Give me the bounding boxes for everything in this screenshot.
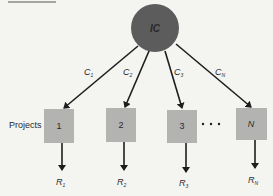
edge-cn-arrow (176, 44, 251, 107)
edge-c3-arrow (165, 51, 182, 108)
edge-c1-arrow (64, 46, 138, 108)
return-label-r2: R2 (117, 177, 127, 188)
return-labels: R1 R2 R3 RN (56, 175, 259, 189)
ellipsis-dots (202, 123, 220, 125)
project-box-n-label: N (248, 119, 255, 129)
edge-label-c2: C2 (123, 67, 133, 78)
source-node-label: IC (150, 23, 161, 34)
project-box-2: 2 (106, 108, 136, 142)
edge-label-c3: C3 (174, 67, 184, 78)
return-label-rn: RN (248, 175, 259, 186)
projects-row-label: Projects (9, 120, 42, 130)
return-arrows (62, 140, 255, 172)
edge-label-c1: C1 (84, 67, 94, 78)
project-box-1: 1 (44, 109, 74, 143)
source-node: IC (131, 4, 179, 52)
edge-label-cn: CN (215, 67, 226, 78)
project-box-3-label: 3 (179, 121, 184, 131)
return-label-r1: R1 (56, 177, 66, 188)
project-box-n: N (236, 108, 267, 140)
project-box-3: 3 (167, 110, 197, 143)
return-label-r3: R3 (179, 178, 189, 189)
project-boxes: 1 2 3 N (44, 108, 267, 143)
capital-allocation-diagram: IC C1 C2 C3 CN Projects 1 2 (0, 0, 273, 196)
project-box-2-label: 2 (118, 120, 123, 130)
project-box-1-label: 1 (56, 121, 61, 131)
edge-c2-arrow (125, 51, 149, 107)
